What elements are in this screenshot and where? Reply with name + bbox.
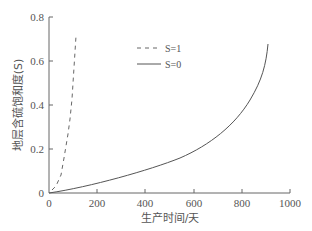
x-tick-200: 200 [89,197,106,209]
y-tick-0.6: 0.6 [30,55,44,67]
legend-s1-label: S=1 [165,43,181,54]
x-tick-400: 400 [137,197,154,209]
y-axis-label: 地层含硫饱和度(S) [11,59,25,152]
x-tick-1000: 1000 [279,197,302,209]
chart: 0.8 0.6 0.4 0.2 0 0 200 400 600 800 1000… [0,0,312,231]
x-axis-label: 生产时间/天 [141,211,200,225]
x-tick-800: 800 [234,197,251,209]
series-s0-line [49,44,268,193]
y-tick-0.8: 0.8 [30,11,44,23]
x-tick-600: 600 [186,197,203,209]
x-tick-0: 0 [46,197,52,209]
y-tick-0.4: 0.4 [30,99,44,111]
y-tick-0.2: 0.2 [30,143,44,155]
y-tick-0: 0 [39,187,45,199]
series-s1-line [52,36,76,190]
legend-s0-label: S=0 [165,59,181,70]
